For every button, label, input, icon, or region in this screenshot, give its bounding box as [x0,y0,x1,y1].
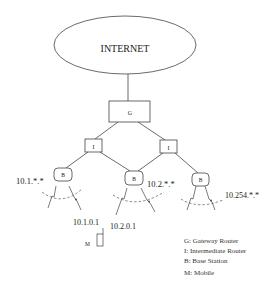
link-intermediate-right-base-middle [138,153,163,171]
mobile-label: M [85,241,90,247]
arrow-dot-right [210,200,212,202]
legend-item-base-station: B: Base Station [184,256,246,266]
gateway-router-label: G [128,110,133,116]
legend-item-gateway: G: Gateway Router [184,236,246,246]
link-intermediate-right-base-right [175,153,198,173]
wireless-link-right-b-icon [205,186,215,210]
link-gateway-intermediate-left [95,122,118,139]
internet-label: INTERNET [101,43,150,54]
base-station-middle-label: B [132,176,136,182]
subnet-middle-label: 10.2.*.* [147,179,175,189]
wireless-link-middle-a-icon [116,188,127,215]
intermediate-router-left-label: I [93,144,95,150]
subnet-left-label: 10.1.*.* [16,176,44,186]
legend: G: Gateway Router I: Intermediate Router… [184,236,246,278]
link-gateway-intermediate-right [138,122,165,140]
base-station-left-label: B [61,172,65,178]
arrow-dot-left [75,199,77,201]
legend-item-mobile: M: Mobile [184,268,246,278]
link-intermediate-left-base-left [66,152,88,168]
wireless-link-left-b-icon [69,186,81,210]
coverage-arc-right [181,199,223,205]
base-station-right-label: B [199,177,203,183]
wireless-link-left-a-icon [48,186,56,208]
mobile-device-icon [97,234,103,246]
intermediate-router-right-label: I [168,145,170,151]
legend-item-intermediate: I: Intermediate Router [184,246,246,256]
coverage-arc-left [42,189,82,199]
wireless-link-right-a-icon [187,186,196,210]
link-intermediate-left-base-middle [100,152,130,171]
coverage-arc-middle [113,192,164,202]
mobile-care-of-address: 10.2.0.1 [110,222,136,231]
subnet-right-label: 10.254.*.* [225,191,259,200]
mobile-home-address: 10.1.0.1 [73,218,99,227]
arrow-dot-middle [148,201,150,203]
